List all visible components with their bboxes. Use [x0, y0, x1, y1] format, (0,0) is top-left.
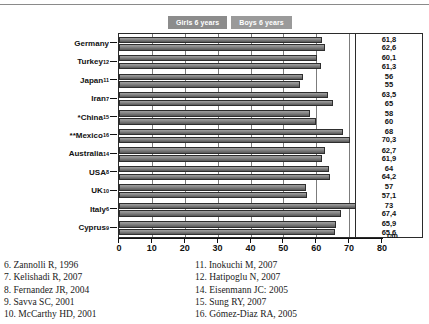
bar-girls — [119, 110, 310, 116]
bar-group-mexico — [119, 127, 382, 145]
category-label-cyprus: Cyprus9 — [78, 219, 117, 237]
category-tick-mark — [110, 116, 117, 117]
x-tick-label-70: 70 — [344, 243, 354, 253]
category-tick-mark — [110, 190, 117, 191]
bar-girls — [119, 37, 322, 43]
category-ref-superscript: 6 — [106, 206, 109, 212]
x-tick-label-0: 0 — [116, 243, 121, 253]
x-axis-tick-labels: 01020304050607080 — [0, 243, 429, 257]
bar-girls — [119, 74, 303, 80]
category-tick-mark — [110, 98, 117, 99]
category-label-uk: UK10 — [91, 182, 117, 200]
value-label-boys: 57,1 — [382, 192, 397, 200]
category-ref-superscript: 12 — [103, 59, 109, 65]
bar-girls — [119, 184, 306, 190]
reference-column-left: 6. Zannolli R, 19967. Kelishadi R, 20078… — [4, 259, 189, 320]
bar-boys — [119, 210, 341, 216]
category-ref-superscript: 9 — [106, 225, 109, 231]
reference-item: 15. Sung RY, 2007 — [195, 296, 380, 308]
value-label-boys: 55 — [385, 81, 393, 89]
bar-boys — [119, 81, 300, 87]
value-label-boys: 60 — [385, 118, 393, 126]
category-ref-superscript: 14 — [103, 151, 109, 157]
category-label-mexico: **Mexico16 — [70, 126, 117, 144]
bar-group-china — [119, 109, 382, 127]
bar-girls — [119, 203, 359, 209]
reference-list: 6. Zannolli R, 19967. Kelishadi R, 20078… — [4, 259, 425, 320]
value-label-boys: 67,4 — [382, 210, 397, 218]
category-tick-mark — [110, 227, 117, 228]
legend-item-girls: Girls 6 years — [168, 16, 227, 29]
category-tick-mark — [110, 61, 117, 62]
bar-group-germany — [119, 35, 382, 53]
reference-item: 14. Eisenmann JC: 2005 — [195, 284, 380, 296]
bar-group-iran — [119, 90, 382, 108]
category-tick-mark — [110, 171, 117, 172]
x-tick-label-80: 80 — [377, 243, 387, 253]
reference-item: 9. Savva SC, 2001 — [4, 296, 189, 308]
bar-group-japan — [119, 72, 382, 90]
bar-boys — [119, 118, 316, 124]
value-label-group: 5860 — [356, 109, 422, 127]
bar-boys — [119, 100, 333, 106]
category-label-usa: USA8 — [89, 163, 117, 181]
value-label-boys: 61,9 — [382, 155, 397, 163]
category-tick-mark — [110, 153, 117, 154]
value-labels-panel: 61,862,660,161,3565563,56558606870,362,7… — [355, 33, 423, 238]
reference-item: 8. Fernandez JR, 2004 — [4, 284, 189, 296]
x-tick-label-40: 40 — [245, 243, 255, 253]
bar-group-italy — [119, 201, 382, 219]
chart-plot-area — [118, 33, 383, 238]
bar-group-uk — [119, 183, 382, 201]
category-label-germany: Germany — [74, 34, 117, 52]
bar-boys — [119, 44, 325, 50]
reference-item: 10. McCarthy HD, 2001 — [4, 308, 189, 320]
value-label-group: 7367,4 — [356, 201, 422, 219]
bar-boys — [119, 137, 350, 143]
x-tick-label-30: 30 — [213, 243, 223, 253]
category-ref-superscript: 15 — [103, 114, 109, 120]
category-label-iran: Iran7 — [91, 89, 117, 107]
bar-boys — [119, 174, 330, 180]
category-ref-superscript: 11 — [103, 77, 109, 83]
value-label-boys: 62,6 — [382, 44, 397, 52]
bar-boys — [119, 155, 322, 161]
value-label-group: 60,161,3 — [356, 53, 422, 71]
value-label-boys: 61,3 — [382, 63, 397, 71]
category-ref-superscript: 7 — [106, 96, 109, 102]
bar-girls — [119, 147, 325, 153]
bar-girls — [119, 92, 328, 98]
x-tick-label-10: 10 — [147, 243, 157, 253]
category-ref-superscript: 16 — [103, 132, 109, 138]
bar-boys — [119, 192, 307, 198]
category-label-china: *China15 — [78, 108, 117, 126]
chart-legend: Girls 6 years Boys 6 years — [168, 16, 292, 29]
category-label-turkey: Turkey12 — [77, 52, 117, 70]
bar-girls — [119, 166, 329, 172]
x-axis-unit-label: cm — [387, 231, 398, 240]
reference-item: 12. Hatipoglu N, 2007 — [195, 271, 380, 283]
value-label-boys: 64,2 — [382, 173, 397, 181]
x-tick-label-50: 50 — [278, 243, 288, 253]
category-label-japan: Japan11 — [80, 71, 117, 89]
bar-group-turkey — [119, 53, 382, 71]
value-label-boys: 70,3 — [382, 136, 397, 144]
bar-girls — [119, 221, 336, 227]
value-label-group: 5655 — [356, 72, 422, 90]
reference-item: 6. Zannolli R, 1996 — [4, 259, 189, 271]
category-tick-mark — [110, 42, 117, 43]
value-label-group: 62,761,9 — [356, 146, 422, 164]
value-label-boys: 65 — [385, 100, 393, 108]
value-label-group: 5757,1 — [356, 183, 422, 201]
value-label-group: 61,862,6 — [356, 35, 422, 53]
value-labels-list: 61,862,660,161,3565563,56558606870,362,7… — [356, 34, 422, 237]
category-label-italy: Italy6 — [90, 200, 117, 218]
category-label-australia: Australia14 — [69, 145, 117, 163]
category-tick-mark — [110, 208, 117, 209]
x-tick-label-20: 20 — [180, 243, 190, 253]
category-ref-superscript: 8 — [106, 169, 109, 175]
bar-girls — [119, 129, 343, 135]
x-tick-label-60: 60 — [311, 243, 321, 253]
chart-bars — [119, 34, 382, 237]
category-ref-superscript: 10 — [103, 188, 109, 194]
